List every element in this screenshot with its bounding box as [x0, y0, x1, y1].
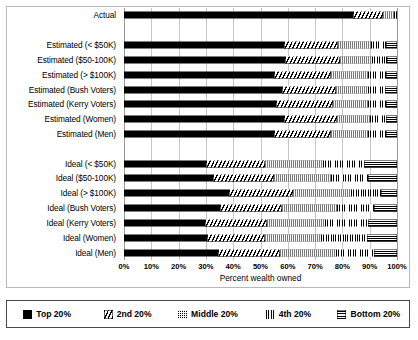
category-label: Estimated (Bush Voters) — [29, 85, 116, 94]
x-tick-label: 70% — [307, 262, 322, 272]
bar-segment-top-20 — [124, 86, 282, 93]
stacked-bar — [124, 56, 397, 63]
category-label: Ideal (Women) — [63, 233, 116, 242]
legend-item[interactable]: 4th 20% — [248, 309, 328, 319]
stacked-bar — [124, 234, 397, 241]
bar-segment-middle-20 — [274, 175, 331, 182]
bar-segment-2nd-20 — [353, 12, 383, 19]
stacked-bar — [124, 175, 397, 182]
legend-label: Bottom 20% — [350, 309, 400, 319]
bar-segment-2nd-20 — [282, 86, 335, 93]
bar-segment-bottom-20 — [367, 234, 397, 241]
legend-item[interactable]: Middle 20% — [168, 309, 248, 319]
legend-label: 4th 20% — [279, 309, 311, 319]
category-label: Estimated (< $50K) — [47, 41, 116, 50]
bar-segment-top-20 — [124, 205, 220, 212]
stacked-bar — [124, 42, 397, 49]
bar-segment-middle-20 — [280, 249, 336, 256]
bar-segment-bottom-20 — [387, 56, 397, 63]
category-label-column: ActualEstimated (< $50K)Estimated ($50-1… — [0, 8, 118, 260]
category-label: Estimated (> $100K) — [42, 70, 116, 79]
legend-item[interactable]: 2nd 20% — [87, 309, 167, 319]
bar-segment-middle-20 — [338, 42, 371, 49]
bar-segment-2nd-20 — [284, 42, 339, 49]
x-tick-label: 60% — [280, 262, 295, 272]
stacked-bar — [124, 116, 397, 123]
bar-segment-2nd-20 — [206, 160, 265, 167]
bar-segment-top-20 — [124, 234, 207, 241]
bar-segment-4th-20 — [351, 190, 381, 197]
bar-segment-bottom-20 — [385, 86, 397, 93]
bar-segment-2nd-20 — [284, 116, 337, 123]
stacked-bar — [124, 205, 397, 212]
bar-segment-middle-20 — [267, 219, 324, 226]
bar-segment-top-20 — [124, 249, 218, 256]
stacked-bar — [124, 101, 397, 108]
x-tick-label: 0% — [119, 262, 130, 272]
bar-segment-4th-20 — [325, 219, 369, 226]
category-label: Estimated (Kerry Voters) — [28, 100, 116, 109]
bar-segment-2nd-20 — [285, 56, 340, 63]
bar-segment-middle-20 — [336, 86, 369, 93]
legend-label: Middle 20% — [191, 309, 238, 319]
category-label: Ideal (Bush Voters) — [47, 204, 116, 213]
legend-item[interactable]: Bottom 20% — [329, 309, 409, 319]
x-tick-label: 20% — [171, 262, 186, 272]
bar-segment-bottom-20 — [364, 160, 397, 167]
bar-segment-2nd-20 — [213, 175, 274, 182]
bar-segment-2nd-20 — [205, 219, 268, 226]
stacked-bar — [124, 160, 397, 167]
category-label: Ideal ($50-100K) — [56, 174, 116, 183]
bar-segment-4th-20 — [372, 56, 387, 63]
x-tick-label: 100% — [387, 262, 406, 272]
stacked-bar — [124, 249, 397, 256]
bar-segment-middle-20 — [337, 116, 370, 123]
bar-segment-top-20 — [124, 56, 285, 63]
category-label: Ideal (Kerry Voters) — [47, 218, 116, 227]
bar-segment-top-20 — [124, 42, 284, 49]
x-tick-label: 40% — [226, 262, 241, 272]
category-label: Ideal (> $100K) — [61, 189, 116, 198]
bar-segment-4th-20 — [370, 116, 386, 123]
x-tick-label: 90% — [362, 262, 377, 272]
bar-segment-4th-20 — [323, 160, 364, 167]
bar-segment-4th-20 — [368, 71, 386, 78]
bar-segment-4th-20 — [368, 86, 384, 93]
bar-segment-top-20 — [124, 131, 274, 138]
bar-segment-2nd-20 — [274, 71, 331, 78]
bar-segment-4th-20 — [336, 249, 374, 256]
bar-segment-top-20 — [124, 12, 353, 19]
bar-segment-4th-20 — [368, 131, 386, 138]
bar-segment-middle-20 — [331, 71, 368, 78]
legend-label: 2nd 20% — [117, 309, 152, 319]
bar-segment-top-20 — [124, 175, 213, 182]
bar-segment-bottom-20 — [396, 12, 397, 19]
bar-segment-2nd-20 — [220, 205, 283, 212]
bar-segment-middle-20 — [331, 131, 368, 138]
bar-segment-middle-20 — [293, 190, 350, 197]
bar-segment-bottom-20 — [374, 249, 397, 256]
bar-segment-middle-20 — [340, 56, 373, 63]
bar-segment-bottom-20 — [368, 175, 397, 182]
category-label: Ideal (< $50K) — [65, 159, 116, 168]
legend-swatch-icon — [23, 310, 32, 319]
legend-swatch-icon — [178, 310, 187, 319]
category-label: Estimated (Women) — [45, 115, 116, 124]
legend-item[interactable]: Top 20% — [7, 309, 87, 319]
stacked-bar — [124, 86, 397, 93]
stacked-bar — [124, 71, 397, 78]
bar-segment-top-20 — [124, 116, 284, 123]
category-label: Estimated ($50-100K) — [37, 55, 116, 64]
x-axis-title: Percent wealth owned — [124, 273, 397, 283]
bar-segment-2nd-20 — [207, 234, 264, 241]
x-tick-label: 80% — [335, 262, 350, 272]
bar-segment-2nd-20 — [229, 190, 293, 197]
bar-segment-top-20 — [124, 160, 206, 167]
category-label: Estimated (Men) — [57, 130, 116, 139]
bar-segment-top-20 — [124, 71, 274, 78]
stacked-bar — [124, 190, 397, 197]
category-label: Ideal (Men) — [75, 248, 116, 257]
bar-segment-bottom-20 — [386, 116, 397, 123]
legend-swatch-icon — [266, 310, 275, 319]
bar-segment-4th-20 — [331, 175, 368, 182]
